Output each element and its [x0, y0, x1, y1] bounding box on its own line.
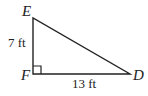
vertex-label-f: F	[20, 67, 31, 83]
right-angle-marker	[33, 66, 41, 74]
triangle-EFD	[33, 18, 130, 74]
side-label-fd: 13 ft	[72, 76, 97, 91]
vertex-label-d: D	[132, 67, 144, 83]
vertex-label-e: E	[21, 3, 31, 19]
triangle-diagram: E F D 7 ft 13 ft	[0, 0, 148, 96]
side-label-ef: 7 ft	[8, 35, 26, 50]
